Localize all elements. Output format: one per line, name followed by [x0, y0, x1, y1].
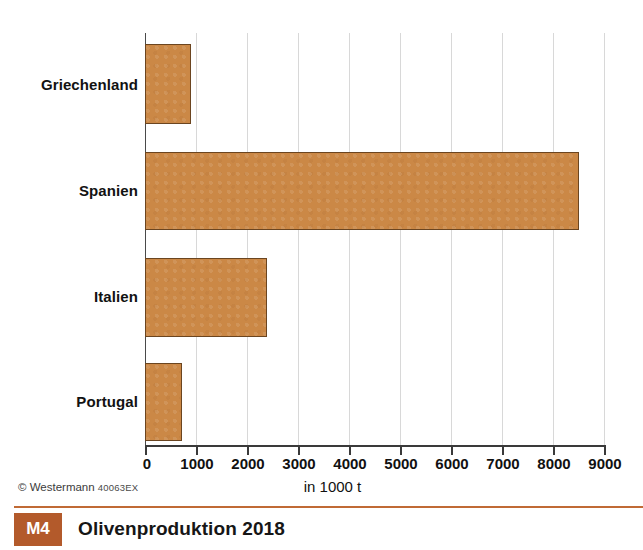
bar-portugal [145, 363, 182, 441]
x-axis-line [145, 445, 606, 447]
category-label-italien: Italien [2, 288, 138, 305]
x-tick-9000 [604, 447, 606, 455]
chart-figure: Griechenland Spanien Italien Portugal 0 … [0, 0, 643, 505]
x-tick-6000 [451, 447, 453, 455]
copyright-publisher: © Westermann [18, 481, 95, 493]
x-tick-label-7000: 7000 [486, 455, 519, 472]
x-tick-label-0: 0 [143, 455, 151, 472]
gridline-7000 [502, 33, 503, 445]
bar-griechenland [145, 44, 191, 124]
bar-spanien [145, 152, 579, 230]
x-tick-1000 [196, 447, 198, 455]
x-tick-label-5000: 5000 [384, 455, 417, 472]
category-label-spanien: Spanien [2, 182, 138, 199]
x-tick-0 [145, 447, 147, 455]
x-tick-label-3000: 3000 [282, 455, 315, 472]
caption-title: Olivenproduktion 2018 [78, 518, 285, 540]
x-tick-7000 [502, 447, 504, 455]
material-badge: M4 [14, 513, 62, 546]
category-axis-labels: Griechenland Spanien Italien Portugal [0, 0, 138, 505]
gridline-2000 [247, 33, 248, 445]
x-tick-label-4000: 4000 [333, 455, 366, 472]
gridline-8000 [553, 33, 554, 445]
plot-area [145, 33, 605, 445]
copyright-code: 40063EX [98, 482, 139, 493]
gridline-1000 [196, 33, 197, 445]
category-label-portugal: Portugal [2, 393, 138, 410]
x-axis-title-text: in 1000 t [304, 478, 362, 495]
x-tick-4000 [349, 447, 351, 455]
x-tick-3000 [298, 447, 300, 455]
x-tick-label-8000: 8000 [537, 455, 570, 472]
copyright-notice: © Westermann 40063EX [18, 481, 138, 493]
bar-italien [145, 258, 267, 337]
x-tick-label-6000: 6000 [435, 455, 468, 472]
gridline-9000 [604, 33, 605, 445]
x-tick-label-1000: 1000 [180, 455, 213, 472]
gridline-6000 [451, 33, 452, 445]
x-tick-2000 [247, 447, 249, 455]
x-tick-8000 [553, 447, 555, 455]
x-tick-5000 [400, 447, 402, 455]
caption-bar: M4 Olivenproduktion 2018 [14, 508, 643, 550]
x-tick-label-2000: 2000 [231, 455, 264, 472]
gridline-4000 [349, 33, 350, 445]
category-label-griechenland: Griechenland [2, 76, 138, 93]
x-tick-label-9000: 9000 [588, 455, 621, 472]
gridline-5000 [400, 33, 401, 445]
gridline-3000 [298, 33, 299, 445]
